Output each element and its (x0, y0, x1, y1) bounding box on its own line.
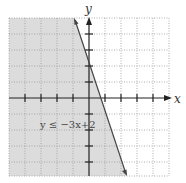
inequality-label: y ≤ −3x+2 (39, 119, 96, 130)
x-axis-label: x (174, 92, 181, 106)
shaded-region (9, 18, 126, 176)
inequality-graph: y x y ≤ −3x+2 (0, 0, 186, 183)
y-axis-label: y (84, 2, 92, 16)
